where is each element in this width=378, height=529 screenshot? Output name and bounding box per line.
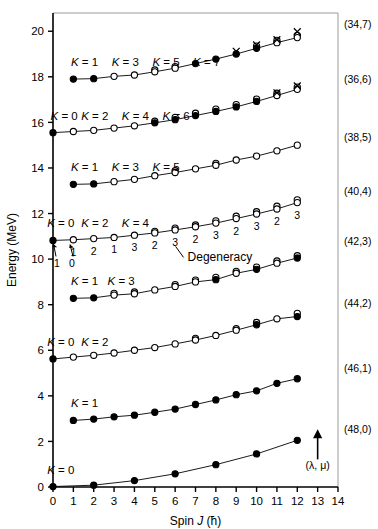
data-point-filled	[213, 397, 219, 403]
data-point-open	[253, 211, 259, 217]
data-point-filled	[70, 417, 76, 423]
degeneracy-number: 2	[152, 239, 158, 251]
data-point-filled	[253, 266, 259, 272]
k-label: K = 1	[71, 397, 98, 409]
degeneracy-number: 3	[172, 236, 178, 248]
data-point-filled	[131, 478, 137, 484]
data-point-filled	[233, 104, 239, 110]
data-point-filled	[152, 409, 158, 415]
band-label: (48,0)	[344, 423, 371, 435]
degeneracy-number: 2	[193, 233, 199, 245]
data-point-open	[131, 232, 137, 238]
data-point-filled	[70, 76, 76, 82]
data-point-filled	[294, 376, 300, 382]
data-point-open	[213, 162, 219, 168]
data-point-open	[131, 291, 137, 297]
k-label: K = 2	[81, 217, 108, 229]
data-point-filled	[91, 76, 97, 82]
y-tick-label: 0	[38, 481, 44, 493]
data-point-open	[152, 287, 158, 293]
data-point-open	[294, 35, 300, 41]
band-label: (38,5)	[344, 131, 371, 143]
data-point-open	[172, 341, 178, 347]
data-point-open	[192, 337, 198, 343]
k-label: K = 1	[71, 56, 98, 68]
k-label: K = 2	[81, 336, 108, 348]
data-point-open	[274, 316, 280, 322]
data-point-open	[91, 236, 97, 242]
data-point-open	[152, 230, 158, 236]
x-tick-label: 11	[271, 495, 283, 507]
band-label: (44,2)	[344, 297, 371, 309]
data-point-open	[70, 237, 76, 243]
data-point-open	[294, 200, 300, 206]
k-label: K = 0	[47, 464, 74, 476]
data-point-open	[131, 72, 137, 78]
data-point-open	[253, 153, 259, 159]
data-point-filled	[111, 414, 117, 420]
data-point-open	[274, 206, 280, 212]
x-tick-label: 10	[250, 495, 263, 507]
k-label: K = 4	[122, 110, 150, 122]
y-tick-label: 16	[31, 117, 44, 129]
degeneracy-number: 2	[233, 225, 239, 237]
degeneracy-number: 2	[91, 245, 97, 257]
data-point-open	[294, 142, 300, 148]
data-point-filled	[294, 313, 300, 319]
data-point-filled	[233, 392, 239, 398]
x-tick-label: 6	[172, 495, 178, 507]
data-point-open	[111, 292, 117, 298]
data-point-filled	[91, 416, 97, 422]
data-point-filled	[172, 406, 178, 412]
rotational-band-energy-chart: 0246810121416182001234567891011121314Spi…	[0, 0, 378, 529]
band-curve	[73, 379, 297, 421]
y-tick-label: 6	[38, 344, 44, 356]
data-point-open	[111, 179, 117, 185]
data-point-open	[91, 352, 97, 358]
y-tick-label: 14	[31, 162, 44, 174]
data-point-open	[233, 157, 239, 163]
x-tick-label: 14	[332, 495, 345, 507]
k-label: K = 3	[112, 161, 139, 173]
data-point-open	[111, 234, 117, 240]
band-label: (34,7)	[344, 18, 371, 30]
x-tick-label: 2	[91, 495, 97, 507]
data-point-open	[274, 260, 280, 266]
k-label: K = 0	[47, 217, 74, 229]
data-point-filled	[192, 112, 198, 118]
band-curve	[73, 38, 297, 79]
data-point-open	[213, 220, 219, 226]
k-label: K = 1	[71, 275, 98, 287]
data-point-filled	[294, 255, 300, 261]
k-label: K = 0	[51, 110, 78, 122]
data-point-filled	[50, 356, 56, 362]
data-point-filled	[152, 120, 158, 126]
y-tick-label: 20	[31, 25, 44, 37]
data-point-open	[111, 73, 117, 79]
k-label: K = 4	[122, 217, 150, 229]
degeneracy-number: 3	[294, 209, 300, 221]
k-label: K = 3	[112, 56, 139, 68]
x-tick-label: 5	[152, 495, 158, 507]
band-label: (46,1)	[344, 362, 371, 374]
data-point-filled	[253, 98, 259, 104]
degeneracy-number: 3	[254, 220, 260, 232]
data-point-filled	[70, 295, 76, 301]
x-tick-label: 9	[233, 495, 239, 507]
x-tick-label: 0	[50, 495, 56, 507]
x-tick-label: 3	[111, 495, 117, 507]
degeneracy-number: 3	[213, 229, 219, 241]
data-point-open	[233, 215, 239, 221]
data-point-filled	[253, 45, 259, 51]
band-curve	[73, 145, 297, 184]
x-tick-label: 8	[213, 495, 219, 507]
data-point-filled	[70, 181, 76, 187]
data-point-open	[274, 148, 280, 154]
x-axis-title: Spin J (ħ)	[170, 514, 221, 528]
x-tick-label: 7	[192, 495, 198, 507]
x-tick-label: 12	[291, 495, 304, 507]
data-point-open	[131, 347, 137, 353]
y-tick-label: 8	[38, 299, 44, 311]
k-label: K = 3	[108, 275, 135, 287]
y-tick-label: 10	[31, 253, 44, 265]
